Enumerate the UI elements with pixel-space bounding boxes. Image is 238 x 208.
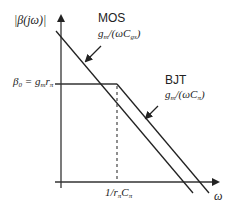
- mos-formula-close: ): [137, 27, 141, 39]
- mos-label: MOS: [98, 12, 125, 24]
- corner-c: C: [121, 186, 128, 198]
- bjt-formula-mid: /(ωC: [176, 88, 198, 100]
- y-axis-label: |β(jω)|: [14, 14, 46, 26]
- corner-c-sub: π: [129, 192, 133, 200]
- beta0-label: β0 = gmrπ: [13, 76, 53, 89]
- mos-formula-mid: /(ωC: [109, 27, 131, 39]
- mos-pointer-arrow: [86, 46, 101, 61]
- bjt-label: BJT: [165, 74, 186, 86]
- beta-r-sub: π: [50, 81, 54, 89]
- bjt-pointer-arrow: [146, 106, 158, 118]
- corner-frequency-label: 1/rπCπ: [105, 187, 132, 200]
- bjt-formula: gm/(ωCπ): [165, 89, 205, 102]
- mos-line: [56, 31, 193, 193]
- beta-eq: = g: [22, 75, 40, 87]
- x-axis-label: ω: [214, 190, 222, 202]
- bjt-formula-close: ): [201, 88, 205, 100]
- mos-formula: gm/(ωCgs): [98, 28, 140, 41]
- corner-pre: 1/r: [105, 186, 118, 198]
